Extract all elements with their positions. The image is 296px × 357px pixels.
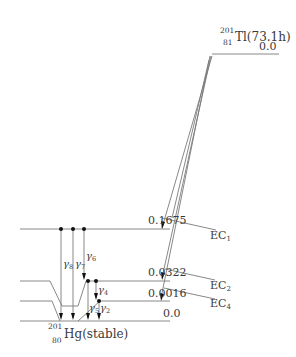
level-energy-2: 0.0016 (148, 288, 187, 299)
ec-label-2: EC2 (210, 280, 231, 293)
daughter-atomic-number: 80 (52, 336, 62, 345)
gamma-label-8: γ8 (63, 258, 73, 271)
parent-level-energy: 0.0 (259, 41, 277, 52)
ec-label-1: EC1 (210, 230, 231, 243)
level-energy-1: 0.0322 (148, 267, 187, 278)
ec-line-4 (161, 56, 210, 298)
gamma-label-7: γ7 (75, 258, 85, 271)
daughter-nuclide-label: 201 80 Hg(stable) (48, 322, 168, 346)
level-energy-3: 0.0 (163, 308, 181, 319)
level-line-0.0016 (20, 301, 60, 321)
gamma-label-4: γ4 (98, 284, 108, 297)
gamma-label-2: γ2 (100, 302, 110, 315)
daughter-mass-number: 201 (48, 322, 62, 331)
parent-mass-number: 201 (220, 26, 234, 35)
parent-atomic-number: 81 (223, 38, 233, 47)
gamma-label-5: γ5 (89, 302, 99, 315)
gamma-label-6: γ6 (86, 250, 96, 263)
level-energy-0: 0.1675 (148, 215, 187, 226)
decay-scheme-lines (0, 0, 296, 357)
daughter-symbol: Hg(stable) (64, 327, 128, 341)
parent-nuclide-label: 201 81 Tl(73.1h) (220, 26, 296, 46)
ec-label-4: EC4 (210, 298, 231, 311)
